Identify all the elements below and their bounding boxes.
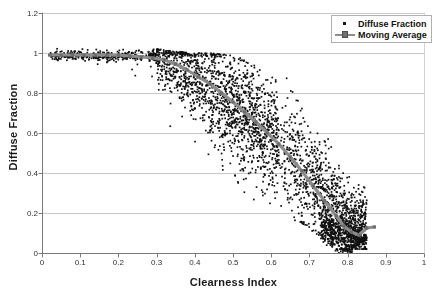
- x-tick-label: 0.4: [189, 258, 200, 267]
- x-tick-label: 0.9: [380, 258, 391, 267]
- legend-item-moving-average: Moving Average: [334, 29, 427, 40]
- y-tick-label: 0.6: [14, 129, 38, 138]
- x-tick-label: 0.2: [113, 258, 124, 267]
- x-tick-label: 0.7: [304, 258, 315, 267]
- scatter-plot-canvas: [0, 0, 445, 298]
- legend-label-diffuse-fraction: Diffuse Fraction: [356, 19, 427, 29]
- y-tick-label: 0.2: [14, 209, 38, 218]
- chart-legend: Diffuse Fraction Moving Average: [331, 15, 432, 43]
- x-tick-label: 0.8: [342, 258, 353, 267]
- y-tick-label: 0: [14, 249, 38, 258]
- y-tick-label: 0.8: [14, 89, 38, 98]
- chart-figure: Diffuse Fraction Clearness Index 00.20.4…: [0, 0, 445, 298]
- legend-label-moving-average: Moving Average: [356, 30, 427, 40]
- line-square-marker-icon: [334, 29, 356, 40]
- x-tick-label: 0: [40, 258, 44, 267]
- scatter-dot-icon: [334, 18, 356, 29]
- y-tick-label: 0.4: [14, 169, 38, 178]
- x-tick-label: 0.6: [266, 258, 277, 267]
- x-tick-label: 0.3: [151, 258, 162, 267]
- y-tick-label: 1: [14, 49, 38, 58]
- x-tick-label: 0.5: [227, 258, 238, 267]
- x-tick-label: 0.1: [75, 258, 86, 267]
- x-tick-label: 1: [422, 258, 426, 267]
- y-tick-label: 1.2: [14, 9, 38, 18]
- legend-item-diffuse-fraction: Diffuse Fraction: [334, 18, 427, 29]
- x-axis-label-text: Clearness Index: [42, 276, 425, 288]
